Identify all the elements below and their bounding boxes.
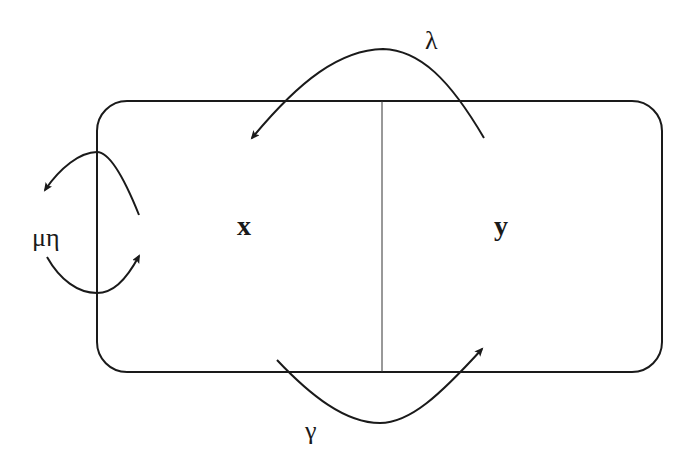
- mu-eta-in-arrow: [47, 256, 139, 293]
- compartment-x-label: x: [237, 212, 251, 240]
- gamma-flow-arrow: [277, 349, 482, 423]
- lambda-flow-arrow: [252, 49, 484, 138]
- mu-eta-out-arrow: [45, 152, 139, 215]
- mu-eta-label: μη: [32, 225, 60, 251]
- compartment-box: [97, 101, 662, 372]
- lambda-label: λ: [425, 28, 438, 54]
- gamma-label: γ: [305, 418, 317, 444]
- compartment-diagram: x y λ γ μη: [0, 0, 694, 467]
- diagram-graphics: [0, 0, 694, 467]
- compartment-y-label: y: [494, 212, 508, 240]
